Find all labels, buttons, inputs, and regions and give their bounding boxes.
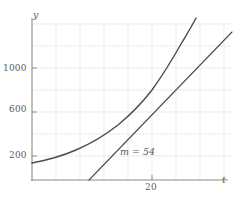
- y-tick-label-600: 600: [9, 104, 27, 114]
- plot-canvas: [0, 0, 234, 200]
- y-axis-label: y: [33, 9, 38, 20]
- y-tick-label-1000: 1000: [3, 63, 27, 73]
- y-axis: [32, 18, 37, 181]
- chart-figure: 1000 600 200 20 y t m = 54: [0, 0, 234, 200]
- x-axis-label: t: [222, 174, 226, 185]
- y-tick-label-200: 200: [9, 150, 27, 160]
- tangent-line: [89, 32, 232, 180]
- exponential-curve: [32, 18, 196, 163]
- x-tick-label-20: 20: [145, 182, 157, 192]
- slope-annotation: m = 54: [120, 146, 155, 157]
- x-axis: [31, 175, 228, 180]
